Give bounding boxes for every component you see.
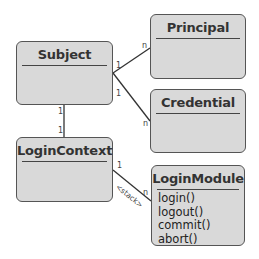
class-name: Principal [151, 20, 245, 35]
method-list: login() logout() commit() abort() [158, 192, 210, 246]
class-divider [157, 189, 239, 190]
class-name: LoginModule [152, 171, 244, 186]
class-name: Credential [151, 95, 245, 110]
multiplicity-subject-principal-from: 1 [116, 62, 121, 70]
method-login: login() [158, 192, 210, 206]
class-principal: Principal [150, 14, 246, 79]
multiplicity-subject-credential-to: n [143, 120, 148, 128]
class-credential: Credential [150, 89, 246, 153]
method-logout: logout() [158, 206, 210, 220]
class-divider [156, 38, 240, 39]
method-commit: commit() [158, 219, 210, 233]
class-subject: Subject [16, 41, 113, 105]
class-divider [22, 161, 107, 162]
class-name: LoginContext [17, 143, 112, 158]
method-abort: abort() [158, 233, 210, 247]
multiplicity-subject-principal-to: n [142, 42, 147, 50]
class-logincontext: LoginContext [16, 137, 113, 202]
class-loginmodule: LoginModule login() logout() commit() ab… [151, 165, 245, 246]
multiplicity-subject-logincontext-from: 1 [58, 108, 63, 116]
multiplicity-logincontext-loginmodule-to: n [143, 189, 148, 197]
multiplicity-subject-credential-from: 1 [116, 90, 121, 98]
class-name: Subject [17, 47, 112, 62]
multiplicity-subject-logincontext-to: 1 [58, 127, 63, 135]
multiplicity-logincontext-loginmodule-from: 1 [117, 162, 122, 170]
class-divider [22, 65, 107, 66]
uml-class-diagram: Subject Principal Credential LoginContex… [0, 0, 259, 259]
class-divider [156, 113, 240, 114]
